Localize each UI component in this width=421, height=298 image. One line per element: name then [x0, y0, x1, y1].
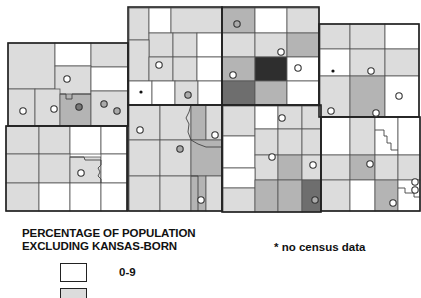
county-fills: [6, 8, 420, 212]
legend-swatch-2: [60, 288, 87, 298]
no-data-note: * no census data: [274, 241, 365, 253]
choropleth-map: [0, 0, 421, 215]
legend-label-0-9: 0-9: [119, 266, 136, 278]
legend-swatch-0-9: [60, 263, 87, 282]
legend-title-line2: EXCLUDING KANSAS-BORN: [22, 240, 196, 253]
legend-title-line1: PERCENTAGE OF POPULATION: [22, 227, 196, 240]
legend-title: PERCENTAGE OF POPULATION EXCLUDING KANSA…: [22, 227, 196, 253]
